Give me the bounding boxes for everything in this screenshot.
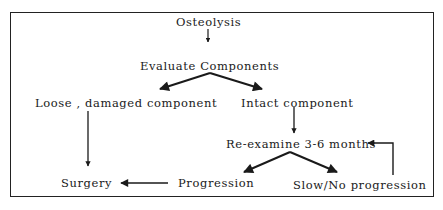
node-surgery: Surgery [61,176,112,190]
arrow-reexamine-to-slow [290,152,337,172]
arrow-reexamine-to-progression [244,152,290,172]
node-slow-no-progression: Slow/No progression [293,178,427,192]
node-reexamine: Re-examine 3-6 months [226,137,376,151]
node-loose-damaged-component: Loose , damaged component [35,96,217,110]
node-intact-component: Intact component [241,96,354,110]
node-osteolysis: Osteolysis [176,15,241,29]
arrow-evaluate-to-loose [160,73,210,89]
node-progression: Progression [178,176,254,190]
node-evaluate-components: Evaluate Components [140,59,279,73]
arrow-evaluate-to-intact [210,73,262,89]
